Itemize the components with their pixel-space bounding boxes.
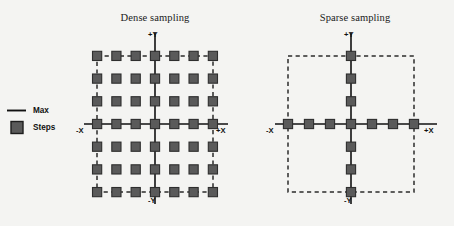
step-marker	[189, 165, 198, 174]
step-marker	[112, 51, 121, 60]
step-marker	[189, 97, 198, 106]
step-marker	[170, 51, 179, 60]
step-marker	[283, 119, 292, 128]
step-marker	[170, 119, 179, 128]
step-marker	[131, 97, 140, 106]
step-marker	[93, 188, 102, 197]
step-marker	[93, 165, 102, 174]
sampling-comparison-diagram: Max Steps Dense sampling +Y -Y	[0, 0, 454, 226]
step-marker	[150, 74, 159, 83]
step-marker	[131, 51, 140, 60]
step-marker	[170, 97, 179, 106]
dense-label-neg-x: -X	[76, 126, 84, 135]
legend-item-max: Max	[7, 106, 49, 115]
step-marker	[346, 51, 355, 60]
step-marker	[189, 51, 198, 60]
step-marker	[150, 165, 159, 174]
step-marker	[112, 74, 121, 83]
sparse-label-pos-y: +Y	[344, 30, 354, 39]
step-marker	[170, 142, 179, 151]
step-marker	[170, 188, 179, 197]
panel-dense: Dense sampling +Y -Y -X +X	[76, 12, 228, 205]
dense-label-neg-y: -Y	[148, 196, 156, 205]
step-marker	[170, 74, 179, 83]
step-marker	[93, 74, 102, 83]
step-marker	[150, 142, 159, 151]
step-marker	[112, 165, 121, 174]
step-marker	[150, 97, 159, 106]
step-marker	[367, 119, 376, 128]
step-marker	[189, 119, 198, 128]
panel-sparse: Sparse sampling +Y -Y -X +X	[266, 12, 437, 205]
step-marker	[189, 74, 198, 83]
step-marker	[346, 142, 355, 151]
step-marker	[150, 119, 159, 128]
panel-title-sparse: Sparse sampling	[320, 12, 391, 23]
sparse-label-neg-x: -X	[266, 126, 274, 135]
step-marker	[208, 74, 217, 83]
step-marker	[208, 165, 217, 174]
step-marker	[388, 119, 397, 128]
step-marker	[150, 51, 159, 60]
step-marker	[189, 188, 198, 197]
step-marker	[131, 165, 140, 174]
step-marker	[346, 97, 355, 106]
legend: Max Steps	[7, 106, 56, 134]
step-marker	[304, 119, 313, 128]
step-marker	[409, 119, 418, 128]
step-marker	[325, 119, 334, 128]
sparse-label-neg-y: -Y	[344, 196, 352, 205]
step-marker	[208, 97, 217, 106]
step-marker	[170, 165, 179, 174]
dense-label-pos-y: +Y	[148, 30, 158, 39]
step-marker	[93, 97, 102, 106]
step-marker	[131, 188, 140, 197]
steps-square-icon	[11, 122, 23, 134]
legend-label-steps: Steps	[33, 123, 56, 132]
step-marker	[112, 142, 121, 151]
sparse-label-pos-x: +X	[424, 126, 434, 135]
step-marker	[346, 165, 355, 174]
step-marker	[131, 74, 140, 83]
step-marker	[112, 97, 121, 106]
step-marker	[208, 188, 217, 197]
step-marker	[346, 74, 355, 83]
step-marker	[131, 142, 140, 151]
step-marker	[112, 119, 121, 128]
step-marker	[189, 142, 198, 151]
step-marker	[208, 51, 217, 60]
dense-label-pos-x: +X	[216, 126, 226, 135]
step-marker	[208, 142, 217, 151]
step-marker	[93, 51, 102, 60]
legend-item-steps: Steps	[11, 122, 56, 134]
legend-label-max: Max	[33, 106, 49, 115]
step-marker	[346, 119, 355, 128]
step-marker	[112, 188, 121, 197]
step-marker	[131, 119, 140, 128]
step-marker	[93, 119, 102, 128]
panel-title-dense: Dense sampling	[121, 12, 190, 23]
step-marker	[93, 142, 102, 151]
figure-canvas: Max Steps Dense sampling +Y -Y	[0, 0, 454, 226]
